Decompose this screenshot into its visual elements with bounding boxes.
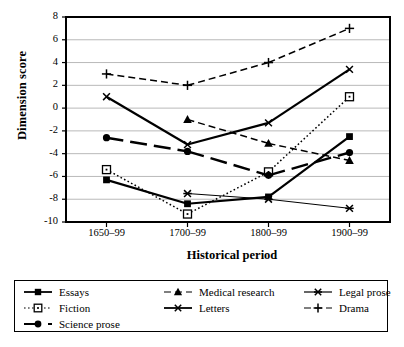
y-tick-label: 8 bbox=[30, 11, 58, 22]
legend-label: Medical research bbox=[199, 286, 274, 298]
legend-symbol-filled-triangle-icon bbox=[161, 285, 195, 299]
legend-item-science-prose[interactable]: Science prose bbox=[21, 317, 161, 331]
y-tick-label: 6 bbox=[30, 34, 58, 45]
legend-symbol-plus-icon bbox=[301, 301, 335, 315]
x-tick-label: 1700–99 bbox=[150, 228, 226, 239]
legend-item-fiction[interactable]: Fiction bbox=[21, 301, 161, 315]
x-axis-title: Historical period bbox=[60, 248, 404, 263]
gridlines-group bbox=[66, 17, 390, 199]
legend-item-medical-research[interactable]: Medical research bbox=[161, 285, 301, 299]
x-tick-label: 1650–99 bbox=[69, 228, 145, 239]
legend-symbol-filled-square-icon bbox=[21, 285, 55, 299]
y-tick-label: -6 bbox=[30, 170, 58, 181]
y-tick-label: -8 bbox=[30, 193, 58, 204]
legend-label: Drama bbox=[339, 302, 369, 314]
legend-item-letters[interactable]: Letters bbox=[161, 301, 301, 315]
legend-item-essays[interactable]: Essays bbox=[21, 285, 161, 299]
y-tick-label: -10 bbox=[30, 216, 58, 227]
x-tick-label: 1800–99 bbox=[231, 228, 307, 239]
y-tick-label: 0 bbox=[30, 102, 58, 113]
y-tick-label: 2 bbox=[30, 79, 58, 90]
axes-group bbox=[62, 17, 390, 227]
series-group bbox=[102, 24, 354, 218]
legend-label: Letters bbox=[199, 302, 230, 314]
legend-grid: EssaysMedical researchLegal proseFiction… bbox=[21, 284, 383, 332]
legend-label: Fiction bbox=[59, 302, 90, 314]
legend-item-legal-prose[interactable]: Legal prose bbox=[301, 285, 383, 299]
legend-label: Science prose bbox=[59, 318, 120, 330]
chart-plot-area: Dimension score 86420-2-4-6-8-10 1650–99… bbox=[0, 0, 404, 270]
legend-symbol-cross-x-icon bbox=[161, 301, 195, 315]
legend-symbol-star-x-icon bbox=[301, 285, 335, 299]
legend-symbol-open-square-icon bbox=[21, 301, 55, 315]
y-tick-label: -2 bbox=[30, 125, 58, 136]
figure-root: Dimension score 86420-2-4-6-8-10 1650–99… bbox=[0, 0, 404, 347]
legend-item-drama[interactable]: Drama bbox=[301, 301, 383, 315]
x-tick-label: 1900–99 bbox=[312, 228, 388, 239]
series-drama bbox=[102, 24, 354, 90]
series-science-prose bbox=[103, 134, 353, 179]
legend-symbol-filled-circle-icon bbox=[21, 317, 55, 331]
legend: EssaysMedical researchLegal proseFiction… bbox=[14, 280, 388, 332]
y-tick-label: 4 bbox=[30, 57, 58, 68]
y-tick-label: -4 bbox=[30, 148, 58, 159]
legend-label: Essays bbox=[59, 286, 89, 298]
legend-label: Legal prose bbox=[339, 286, 391, 298]
